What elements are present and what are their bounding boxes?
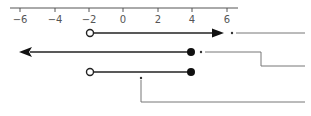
tick-label: 0 [120, 14, 126, 25]
tick-label: 4 [189, 14, 195, 25]
tick-label: 6 [224, 14, 230, 25]
open-endpoint-icon [87, 30, 94, 37]
inequality-row-1 [87, 29, 306, 38]
inequality-row-3 [87, 68, 306, 102]
tick-label: 2 [155, 14, 161, 25]
closed-endpoint-icon [187, 48, 195, 56]
axis-ticks [20, 8, 227, 12]
tick-label: −6 [13, 14, 28, 25]
closed-endpoint-icon [187, 68, 195, 76]
connector-line-2 [205, 52, 305, 66]
number-line-diagram: −6 −4 −2 0 2 4 6 [0, 0, 311, 116]
tick-label: −2 [82, 14, 97, 25]
tick-label: −4 [48, 14, 63, 25]
connector-dot-icon [140, 77, 142, 79]
inequality-row-2 [19, 47, 305, 66]
number-line-axis: −6 −4 −2 0 2 4 6 [10, 8, 238, 25]
connector-line-3 [141, 80, 305, 102]
axis-tick-labels: −6 −4 −2 0 2 4 6 [13, 14, 231, 25]
connector-dot-icon [231, 32, 233, 34]
arrow-right-icon [212, 29, 224, 38]
open-endpoint-icon [87, 69, 94, 76]
connector-dot-icon [200, 51, 202, 53]
